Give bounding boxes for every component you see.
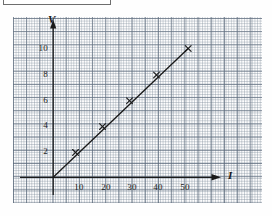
y-tick-label-10: 10 <box>30 44 48 53</box>
x-tick-label-10: 10 <box>69 183 89 192</box>
x-tick-label-40: 40 <box>148 183 168 192</box>
x-tick-label-20: 20 <box>96 183 116 192</box>
data-point-marker <box>73 150 79 156</box>
figure-canvas: V I 10 8 6 4 2 10 20 30 40 50 <box>0 0 272 216</box>
data-line <box>53 49 188 178</box>
x-axis-arrowhead <box>212 174 222 180</box>
y-tick-label-4: 4 <box>30 121 48 130</box>
data-point-marker <box>185 46 191 52</box>
data-point-marker <box>154 72 160 78</box>
y-tick-label-2: 2 <box>30 147 48 156</box>
data-point-marker <box>100 124 106 130</box>
y-tick-label-8: 8 <box>30 70 48 79</box>
x-tick-label-30: 30 <box>122 183 142 192</box>
data-point-marker <box>127 98 133 104</box>
x-tick-label-50: 50 <box>175 183 195 192</box>
y-axis-label: V <box>48 14 55 25</box>
x-axis-label: I <box>228 170 232 181</box>
y-tick-label-6: 6 <box>30 96 48 105</box>
